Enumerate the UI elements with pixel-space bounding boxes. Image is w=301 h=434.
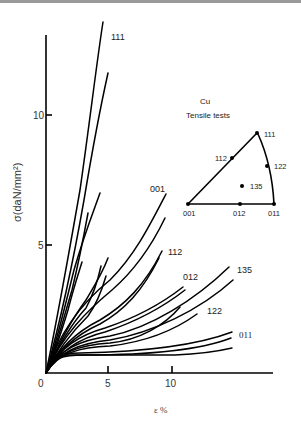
point-012-icon [238, 202, 242, 206]
tri-label-135: 135 [250, 182, 263, 191]
y-tick-label-5: 5 [38, 240, 44, 251]
x-tick-label-10: 10 [165, 378, 177, 389]
triangle-edge-111-011 [258, 134, 274, 204]
tri-label-011: 011 [268, 209, 280, 218]
curve-111-a [46, 22, 103, 373]
label-011: 011 [239, 330, 252, 340]
tri-label-001: 001 [183, 209, 196, 218]
x-tick-label-5: 5 [105, 378, 111, 389]
y-axis-label: σ(daN/mm²) [11, 163, 23, 222]
tri-label-012: 012 [233, 209, 246, 218]
x-axis-label: ε % [154, 405, 168, 415]
point-001-icon [186, 202, 190, 206]
triangle-edge-001-111 [188, 134, 256, 204]
label-001: 001 [150, 184, 165, 194]
label-135: 135 [237, 265, 252, 275]
point-111-icon [255, 131, 259, 135]
inset-title-tensile: Tensile tests [186, 111, 230, 120]
label-012: 012 [183, 272, 198, 282]
label-112: 112 [168, 247, 182, 257]
tri-label-111: 111 [264, 130, 275, 139]
point-122-icon [265, 164, 269, 168]
inset-title-cu: Cu [200, 97, 210, 106]
label-122: 122 [207, 306, 222, 316]
stress-strain-chart: 10 5 0 5 10 σ(daN/mm²) ε % 111 001 112 0… [0, 0, 301, 434]
y-tick-label-10: 10 [33, 110, 45, 121]
stereographic-triangle-inset: Cu Tensile tests 001 012 011 112 111 122… [183, 97, 287, 218]
point-112-icon [230, 156, 234, 160]
point-011-icon [272, 202, 276, 206]
point-135-icon [240, 184, 244, 188]
tri-label-112: 112 [215, 154, 227, 163]
tri-label-122: 122 [274, 162, 287, 171]
label-111: 111 [111, 32, 125, 42]
x-tick-label-0: 0 [38, 378, 44, 389]
